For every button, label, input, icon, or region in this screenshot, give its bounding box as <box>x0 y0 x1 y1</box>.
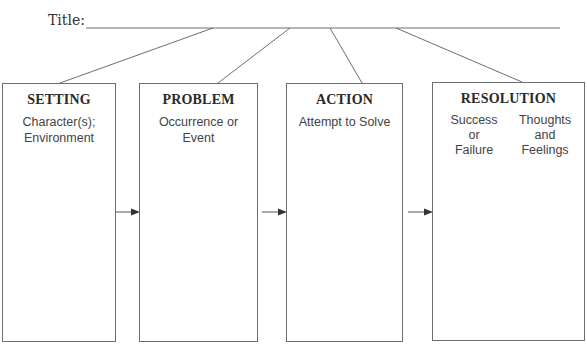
connector-problem <box>218 28 290 83</box>
resolution-columns: Success or Failure Thoughts and Feelings <box>433 113 584 158</box>
resolution-heading: RESOLUTION <box>433 91 584 107</box>
action-heading: ACTION <box>287 92 402 108</box>
resolution-outcome: Success or Failure <box>443 113 505 158</box>
setting-description: Character(s); Environment <box>3 114 115 146</box>
action-box[interactable]: ACTION Attempt to Solve <box>286 83 403 342</box>
resolution-feelings-line: Feelings <box>514 143 576 158</box>
setting-description-line: Environment <box>3 130 115 146</box>
arrow-problem-to-action <box>262 209 287 216</box>
action-description: Attempt to Solve <box>287 114 402 130</box>
connector-resolution <box>396 28 522 82</box>
resolution-outcome-line: Failure <box>443 143 505 158</box>
resolution-feelings: Thoughts and Feelings <box>514 113 576 158</box>
problem-description-line: Occurrence or <box>140 114 257 130</box>
connector-setting <box>60 28 213 83</box>
action-description-line: Attempt to Solve <box>287 114 402 130</box>
problem-box[interactable]: PROBLEM Occurrence or Event <box>139 83 258 342</box>
arrow-action-to-resolution <box>408 209 433 216</box>
setting-box[interactable]: SETTING Character(s); Environment <box>2 83 116 342</box>
resolution-box[interactable]: RESOLUTION Success or Failure Thoughts a… <box>432 82 585 341</box>
problem-description: Occurrence or Event <box>140 114 257 146</box>
problem-description-line: Event <box>140 130 257 146</box>
arrow-setting-to-problem <box>115 209 140 216</box>
connector-action <box>330 28 362 83</box>
resolution-outcome-line: Success <box>443 113 505 128</box>
resolution-feelings-line: Thoughts <box>514 113 576 128</box>
resolution-feelings-line: and <box>514 128 576 143</box>
resolution-outcome-line: or <box>443 128 505 143</box>
problem-heading: PROBLEM <box>140 92 257 108</box>
setting-description-line: Character(s); <box>3 114 115 130</box>
setting-heading: SETTING <box>3 92 115 108</box>
